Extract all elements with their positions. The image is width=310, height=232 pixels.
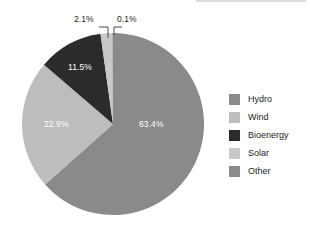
- legend-swatch-solar: [229, 148, 240, 159]
- pie-chart-figure: 63.4% 22.9% 11.5% 2.1% 0.1% HydroWindBio…: [0, 0, 310, 232]
- legend-label-other: Other: [248, 167, 271, 176]
- legend-item-wind[interactable]: Wind: [229, 108, 307, 126]
- legend-label-bioenergy: Bioenergy: [248, 131, 289, 140]
- slice-label-solar: 2.1%: [74, 14, 94, 24]
- slice-label-bioenergy: 11.5%: [68, 62, 92, 72]
- legend-swatch-wind: [229, 112, 240, 123]
- legend-swatch-hydro: [229, 94, 240, 105]
- legend-label-solar: Solar: [248, 149, 269, 158]
- legend-item-other[interactable]: Other: [229, 162, 307, 180]
- legend-item-solar[interactable]: Solar: [229, 144, 307, 162]
- legend-label-hydro: Hydro: [248, 95, 272, 104]
- legend-item-hydro[interactable]: Hydro: [229, 90, 307, 108]
- legend-swatch-other: [229, 166, 240, 177]
- legend-label-wind: Wind: [248, 113, 269, 122]
- slice-label-other: 0.1%: [117, 14, 137, 24]
- legend-swatch-bioenergy: [229, 130, 240, 141]
- legend-item-bioenergy[interactable]: Bioenergy: [229, 126, 307, 144]
- slice-label-wind: 22.9%: [44, 119, 69, 129]
- chart-legend: HydroWindBioenergySolarOther: [229, 90, 307, 180]
- slice-label-hydro: 63.4%: [139, 119, 164, 129]
